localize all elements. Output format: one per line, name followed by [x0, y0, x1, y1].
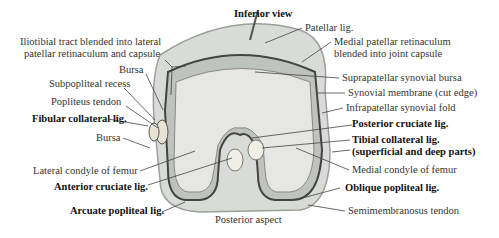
label-tibial-collateral-1: Tibial collateral lig.	[352, 134, 440, 146]
label-medial-retinaculum-1: Medial patellar retinaculum	[334, 36, 451, 48]
label-synovial-membrane: Synovial membrane (cut edge)	[348, 87, 477, 99]
label-oblique-popliteal: Oblique popliteal lig.	[345, 182, 439, 194]
label-bursa-lower: Bursa	[96, 132, 121, 144]
label-medial-condyle: Medial condyle of femur	[352, 164, 457, 176]
label-tibial-collateral-2: (superficial and deep parts)	[352, 146, 475, 158]
label-patellar-lig: Patellar lig.	[305, 22, 353, 34]
label-semimembranosus: Semimembranosus tendon	[348, 205, 459, 217]
label-fibular-collateral: Fibular collateral lig.	[32, 113, 127, 125]
label-anterior-cruciate: Anterior cruciate lig.	[54, 181, 148, 193]
label-iliotibial-1: Iliotibial tract blended into lateral	[20, 36, 161, 48]
label-iliotibial-2: patellar retinaculum and capsule	[24, 48, 160, 60]
label-suprapatellar-bursa: Suprapatellar synovial bursa	[342, 72, 462, 84]
view-title: Inferior view	[234, 8, 292, 20]
label-popliteus-tendon: Popliteus tendon	[51, 96, 121, 108]
label-subpopliteal-recess: Subpopliteal recess	[49, 78, 130, 90]
label-arcuate-popliteal: Arcuate popliteal lig.	[70, 205, 164, 217]
label-medial-retinaculum-2: blended into joint capsule	[334, 48, 442, 60]
label-infrapatellar-fold: Infrapatellar synovial fold	[346, 102, 456, 114]
label-lateral-condyle: Lateral condyle of femur	[33, 165, 138, 177]
view-footer: Posterior aspect	[215, 214, 282, 226]
label-bursa-upper: Bursa	[119, 64, 144, 76]
label-posterior-cruciate: Posterior cruciate lig.	[352, 118, 448, 130]
